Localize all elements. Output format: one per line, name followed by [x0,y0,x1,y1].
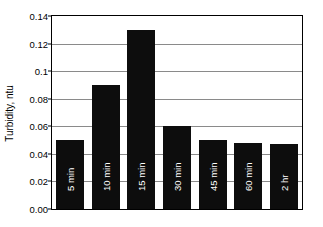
plot-area: 5 min10 min15 min30 min45 min60 min2 hr [51,15,303,210]
bar: 2 hr [270,144,298,209]
bar: 60 min [234,143,262,209]
y-axis-tick-label: 0.02 [30,176,49,187]
bars-group: 5 min10 min15 min30 min45 min60 min2 hr [52,16,302,209]
y-axis-title-label: Turbidity, ntu [4,85,15,142]
bar: 15 min [127,30,155,209]
y-axis-tick-labels: 0.000.020.040.060.080.10.120.14 [18,15,48,210]
bar: 30 min [163,126,191,209]
y-axis-title: Turbidity, ntu [0,0,18,227]
bar: 10 min [92,85,120,209]
bar-category-label: 15 min [136,162,147,191]
bar-category-label: 30 min [171,162,182,191]
y-axis-tick-label: 0.00 [30,204,49,215]
bar-category-label: 5 min [64,168,75,191]
bar-category-label: 45 min [207,162,218,191]
bar-category-label: 2 hr [279,175,290,191]
y-axis-tick-label: 0.08 [30,93,49,104]
bar: 5 min [56,140,84,209]
y-axis-tick-label: 0.1 [35,66,48,77]
y-axis-tick-label: 0.14 [30,11,49,22]
bar-category-label: 10 min [100,162,111,191]
y-axis-tick-label: 0.12 [30,38,49,49]
y-axis-tick-label: 0.04 [30,148,49,159]
bar: 45 min [199,140,227,209]
bar-chart-figure: Turbidity, ntu 0.000.020.040.060.080.10.… [0,0,323,227]
bar-category-label: 60 min [243,162,254,191]
y-axis-tick-label: 0.06 [30,121,49,132]
